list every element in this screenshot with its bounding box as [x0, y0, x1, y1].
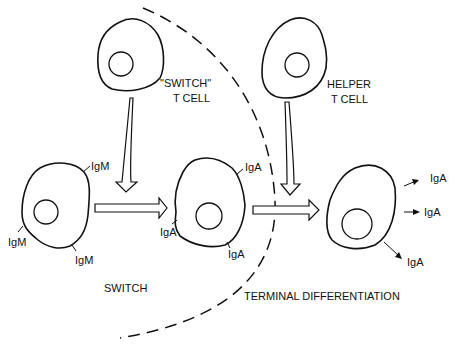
igm-receptor-tick [18, 226, 23, 232]
helper-t-cell-nucleus [285, 53, 309, 77]
helper-t-cell-down-arrow [281, 102, 300, 195]
switch-right-arrow [95, 198, 167, 218]
switch-t-cell-label-2: T CELL [173, 92, 210, 104]
helper-t-cell-label-2: T CELL [331, 93, 368, 105]
terminal-differentiation-region-label: TERMINAL DIFFERENTIATION [244, 290, 400, 302]
switch-t-cell-membrane [98, 19, 164, 91]
iga-b-cell-nucleus [196, 203, 222, 229]
switch-t-cell-label-1: "SWITCH" [160, 77, 211, 89]
igm-b-cell-nucleus [34, 200, 58, 224]
iga-receptor-tick [172, 220, 177, 224]
helper-t-cell-membrane [262, 18, 327, 98]
switch-t-cell-nucleus [109, 52, 133, 76]
iga-receptor-label: IgA [228, 248, 245, 260]
switch-t-cell-down-arrow [116, 98, 137, 192]
igm-receptor-tick [83, 166, 90, 172]
secreted-iga-label: IgA [430, 172, 447, 184]
plasma-cell-membrane [327, 165, 396, 248]
switch-t-cell: "SWITCH" T CELL [98, 19, 211, 104]
secreted-iga-label: IgA [424, 206, 441, 218]
diagram-svg: "SWITCH" T CELL HELPER T CELL IgM IgM Ig… [0, 0, 454, 355]
diagram-canvas: "SWITCH" T CELL HELPER T CELL IgM IgM Ig… [0, 0, 454, 355]
iga-b-cell-membrane [175, 158, 245, 247]
helper-t-cell: HELPER T CELL [262, 18, 371, 105]
secreted-iga-label: IgA [407, 256, 424, 268]
iga-b-cell: IgA IgA IgA [160, 158, 262, 260]
igm-b-cell: IgM IgM IgM [8, 160, 109, 266]
igm-receptor-label: IgM [8, 236, 26, 248]
plasma-cell: IgA IgA IgA [327, 165, 447, 268]
plasma-cell-nucleus [342, 209, 372, 239]
iga-receptor-tick [237, 169, 243, 174]
arrowhead-icon [412, 179, 419, 185]
igm-receptor-label: IgM [75, 254, 93, 266]
differentiation-right-arrow [253, 200, 319, 220]
iga-receptor-label: IgA [160, 226, 177, 238]
iga-receptor-label: IgA [245, 161, 262, 173]
switch-region-label: SWITCH [104, 282, 147, 294]
helper-t-cell-label-1: HELPER [327, 78, 371, 90]
arrowhead-icon [413, 209, 420, 215]
igm-receptor-tick [72, 245, 76, 251]
secretion-arrow [384, 242, 399, 256]
igm-receptor-label: IgM [91, 160, 109, 172]
